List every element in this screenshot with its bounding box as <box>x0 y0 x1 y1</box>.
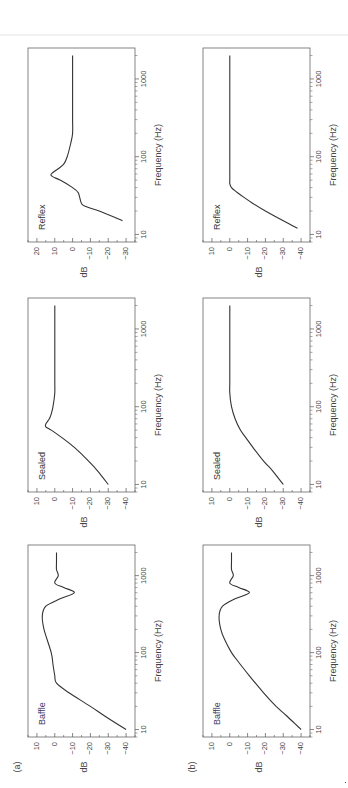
db-tick-label: 0 <box>225 742 234 746</box>
panel-title: Sealed <box>212 452 222 480</box>
db-tick-label: 10 <box>207 247 216 255</box>
freq-tick-label: 1000 <box>139 321 148 338</box>
db-tick-label: −40 <box>121 497 130 510</box>
response-curve <box>45 306 108 485</box>
db-tick-label: 10 <box>32 497 41 505</box>
row-label: (b) <box>187 761 197 772</box>
db-tick-label: −40 <box>296 247 305 260</box>
x-axis-label: Frequency (Hz) <box>153 620 163 682</box>
freq-tick-label: 100 <box>314 400 323 413</box>
y-axis-label: dB <box>79 761 89 772</box>
db-tick-label: 10 <box>207 497 216 505</box>
db-tick-label: 10 <box>207 742 216 750</box>
freq-tick-label: 100 <box>139 400 148 413</box>
panel-b-reflex: 100−10−20−30−40101001000ReflexFrequency … <box>203 48 338 278</box>
y-axis-label: dB <box>79 516 89 527</box>
panel-title: Reflex <box>37 204 47 230</box>
db-tick-label: −10 <box>68 497 77 510</box>
db-tick-label: −10 <box>243 247 252 260</box>
panel-title: Reflex <box>212 204 222 230</box>
freq-tick-label: 10 <box>314 230 323 238</box>
db-tick-label: 0 <box>50 497 59 501</box>
db-tick-label: −20 <box>260 742 269 755</box>
freq-tick-label: 1000 <box>314 321 323 338</box>
db-tick-label: 0 <box>225 247 234 251</box>
panel-a-reflex: 20100−10−20−30101001000ReflexFrequency (… <box>28 48 163 278</box>
freq-tick-label: 10 <box>139 230 148 238</box>
db-tick-label: −20 <box>260 247 269 260</box>
x-axis-label: Frequency (Hz) <box>328 124 338 186</box>
db-tick-label: −40 <box>121 742 130 755</box>
panel-title: Baffle <box>212 702 222 725</box>
freq-tick-label: 100 <box>314 646 323 659</box>
db-tick-label: −30 <box>278 247 287 260</box>
db-tick-label: −20 <box>85 742 94 755</box>
db-tick-label: 10 <box>32 742 41 750</box>
db-tick-label: −40 <box>296 742 305 755</box>
freq-tick-label: 1000 <box>139 567 148 584</box>
y-axis-label: dB <box>254 761 264 772</box>
freq-tick-label: 10 <box>139 725 148 733</box>
y-axis-label: dB <box>254 516 264 527</box>
freq-tick-label: 100 <box>139 150 148 163</box>
db-tick-label: −10 <box>243 497 252 510</box>
panel-title: Baffle <box>37 702 47 725</box>
db-tick-label: −30 <box>278 742 287 755</box>
freq-tick-label: 1000 <box>314 567 323 584</box>
response-curve <box>51 56 123 221</box>
response-curve <box>42 553 126 730</box>
db-tick-label: 10 <box>50 247 59 255</box>
db-tick-label: −30 <box>121 247 130 260</box>
db-tick-label: −30 <box>103 742 112 755</box>
panel-b-baffle: 100−10−20−30−40101001000BaffleFrequency … <box>203 545 338 773</box>
panel-title: Sealed <box>37 452 47 480</box>
db-tick-label: −10 <box>243 742 252 755</box>
freq-tick-label: 100 <box>314 150 323 163</box>
response-curve <box>230 56 298 229</box>
panel-a-sealed: 100−10−20−30−40101001000SealedFrequency … <box>28 298 163 528</box>
freq-tick-label: 10 <box>314 480 323 488</box>
response-curve <box>219 553 301 730</box>
x-axis-label: Frequency (Hz) <box>328 374 338 436</box>
stray-mark <box>345 782 346 783</box>
panel-a-baffle: 100−10−20−30−40101001000BaffleFrequency … <box>28 545 163 773</box>
x-axis-label: Frequency (Hz) <box>153 374 163 436</box>
db-tick-label: −40 <box>296 497 305 510</box>
db-tick-label: −20 <box>85 497 94 510</box>
db-tick-label: 0 <box>50 742 59 746</box>
db-tick-label: −10 <box>85 247 94 260</box>
y-axis-label: dB <box>79 266 89 277</box>
freq-tick-label: 1000 <box>314 71 323 88</box>
db-tick-label: −20 <box>103 247 112 260</box>
x-axis-label: Frequency (Hz) <box>328 620 338 682</box>
db-tick-label: −10 <box>68 742 77 755</box>
db-tick-label: −30 <box>278 497 287 510</box>
db-tick-label: 0 <box>68 247 77 251</box>
db-tick-label: 0 <box>225 497 234 501</box>
freq-tick-label: 10 <box>314 725 323 733</box>
db-tick-label: −20 <box>260 497 269 510</box>
x-axis-label: Frequency (Hz) <box>153 124 163 186</box>
db-tick-label: −30 <box>103 497 112 510</box>
db-tick-label: 20 <box>32 247 41 255</box>
freq-tick-label: 1000 <box>139 71 148 88</box>
y-axis-label: dB <box>254 266 264 277</box>
figure-canvas: 100−10−20−30−40101001000BaffleFrequency … <box>0 0 348 788</box>
freq-tick-label: 10 <box>139 480 148 488</box>
response-curve <box>230 306 284 485</box>
panel-b-sealed: 100−10−20−30−40101001000SealedFrequency … <box>203 298 338 528</box>
freq-tick-label: 100 <box>139 646 148 659</box>
row-label: (a) <box>12 761 22 772</box>
